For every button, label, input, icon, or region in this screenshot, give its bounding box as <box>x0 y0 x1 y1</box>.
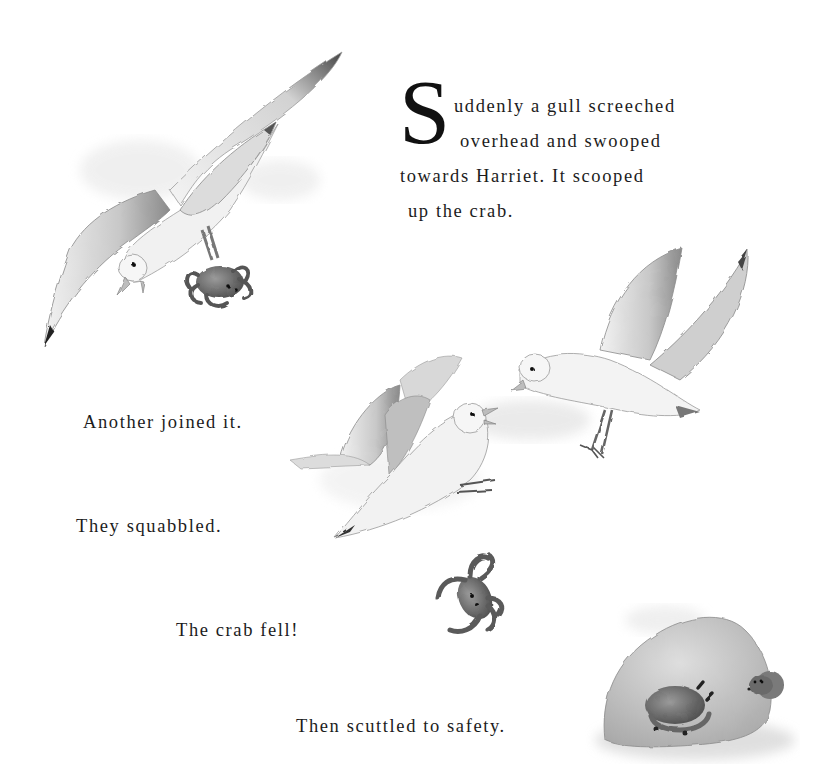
story-line-fell: The crab fell! <box>176 614 299 647</box>
story-line-1: uddenly a gull screeched <box>454 90 676 123</box>
story-line-another: Another joined it. <box>83 406 243 439</box>
story-line-squabbled: They squabbled. <box>76 510 222 543</box>
story-line-2: overhead and swooped <box>460 125 662 158</box>
falling-crab-illustration <box>430 548 520 648</box>
story-line-safety: Then scuttled to safety. <box>296 710 506 743</box>
drop-cap: S <box>399 66 450 158</box>
squabbling-gulls-illustration <box>280 240 760 540</box>
crab-and-rock-illustration <box>585 590 800 770</box>
story-line-4: up the crab. <box>408 195 514 228</box>
book-page: S uddenly a gull screeched overhead and … <box>0 0 826 781</box>
story-line-3: towards Harriet. It scooped <box>400 160 645 193</box>
